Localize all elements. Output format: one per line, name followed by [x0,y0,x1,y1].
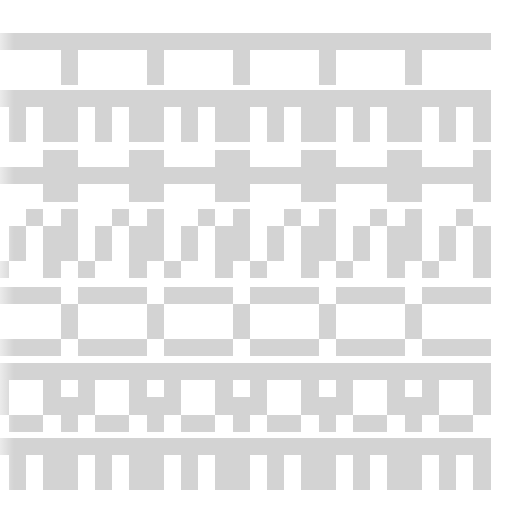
pattern-block [473,455,491,472]
pattern-block [301,380,319,397]
pattern-block [353,226,370,243]
pattern-block [129,261,147,278]
pattern-block [95,226,112,243]
pattern-block [43,397,95,415]
pattern-block [473,226,491,243]
pattern-block [129,124,164,142]
pattern-block [95,455,112,472]
pattern-block [301,107,336,124]
pattern-block [267,415,301,432]
pattern-block [215,107,250,124]
pattern-block [387,107,422,124]
pattern-block [473,243,491,261]
pattern-block [301,124,336,142]
pattern-block [147,321,164,339]
pattern-block [43,261,61,278]
pattern-block [439,472,456,490]
pattern-block [422,287,491,304]
pattern-block [215,472,250,490]
pattern-block [95,243,112,261]
pattern-block [129,397,181,415]
pattern-block [319,321,336,339]
pattern-block [61,209,78,226]
pattern-block [336,339,405,356]
pattern-block [215,455,250,472]
pattern-block [439,226,456,243]
pattern-block [353,124,370,142]
pattern-block [43,107,78,124]
pattern-block [353,107,370,124]
pattern-block [61,415,78,432]
pattern-block [112,209,129,226]
pattern-block [129,455,164,472]
pattern-block [129,150,164,167]
pattern-block [353,415,387,432]
pattern-block [147,209,164,226]
pattern-block [439,455,456,472]
pattern-block [473,124,491,142]
pattern-block [129,243,164,261]
pattern-block [0,287,61,304]
window-border [0,363,526,432]
comb-border-2 [0,438,526,490]
pattern-block [78,287,147,304]
pattern-block [78,380,95,397]
pattern-block [95,107,112,124]
pattern-block [0,167,491,184]
box-chain-border [0,287,526,356]
pattern-block [43,455,78,472]
pattern-block [267,455,284,472]
pattern-block [9,124,26,142]
pattern-block [129,107,164,124]
pattern-block [215,226,250,243]
pattern-block [129,184,164,202]
pattern-block [422,339,491,356]
pattern-block [387,380,405,397]
pattern-block [473,472,491,490]
pattern-block [387,243,422,261]
pattern-block [422,261,439,278]
pattern-block [43,124,78,142]
pattern-block [215,124,250,142]
pattern-block [215,261,233,278]
pattern-block [198,209,215,226]
pattern-block [405,415,422,432]
pattern-block [61,50,78,67]
pattern-block [353,472,370,490]
pattern-block [250,261,267,278]
pattern-block [0,380,9,397]
pattern-block [147,50,164,67]
pattern-block [250,380,267,397]
pattern-block [9,455,26,472]
pattern-block [301,150,336,167]
pattern-block [215,397,267,415]
pattern-block [473,184,491,202]
pattern-block [353,455,370,472]
pattern-block [43,472,78,490]
pattern-block [336,261,353,278]
pattern-block [215,184,250,202]
pattern-block [9,226,26,243]
pattern-block [181,124,198,142]
pattern-block [284,209,301,226]
pattern-block [147,415,164,432]
pattern-block [215,243,250,261]
pattern-block [405,50,422,67]
pattern-block [233,415,250,432]
pattern-block [319,67,336,85]
pattern-block [181,107,198,124]
pattern-block [301,184,336,202]
pattern-block [61,321,78,339]
pattern-block [473,397,491,415]
pattern-block [405,67,422,85]
pattern-block [405,304,422,321]
pattern-block [405,321,422,339]
pattern-block [0,339,61,356]
pattern-block [233,321,250,339]
pattern-block [473,107,491,124]
pattern-block [61,304,78,321]
pattern-block [319,415,336,432]
pattern-block [405,209,422,226]
pattern-block [181,243,198,261]
t-stem-border [0,33,526,85]
